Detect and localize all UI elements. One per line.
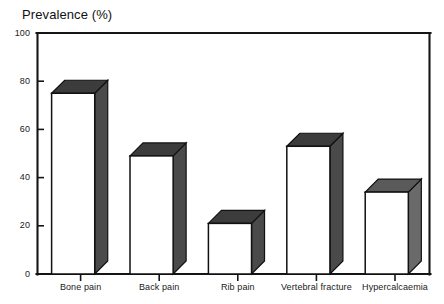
y-axis-label-80: 80 [2,77,30,86]
bar-side-face [408,179,421,274]
bar-rib-pain [208,210,264,274]
bar-bone-pain [52,80,108,274]
x-axis-label-hypercalcaemia: Hypercalcaemia [349,282,441,292]
bar-side-face [95,80,108,274]
bar-hypercalcaemia [365,179,421,274]
bar-vertebral-fracture [287,133,343,274]
y-axis-label-20: 20 [2,221,30,230]
y-axis-label-60: 60 [2,125,30,134]
bar-side-face [330,133,343,274]
bar-front-face [287,146,330,274]
bar-back-pain [130,143,186,274]
y-axis-label-100: 100 [2,29,30,38]
bar-side-face [173,143,186,274]
y-axis-label-0: 0 [2,270,30,279]
bar-chart: Prevalence (%) 100 80 [0,0,444,304]
bar-series [52,80,422,274]
bar-front-face [365,192,408,274]
y-axis-label-40: 40 [2,173,30,182]
x-axis-label-back-pain: Back pain [119,282,199,292]
bar-front-face [52,93,95,274]
x-axis-label-rib-pain: Rib pain [198,282,278,292]
x-axis-label-bone-pain: Bone pain [41,282,121,292]
bar-front-face [208,223,251,274]
plot-area [0,0,444,304]
bar-front-face [130,156,173,274]
